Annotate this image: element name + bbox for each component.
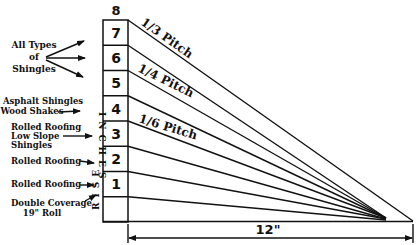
label-rolled-low-slope: Rolled Roofing Low Slope Shingles bbox=[11, 122, 92, 150]
svg-text:7: 7 bbox=[111, 25, 121, 41]
pitch-1-6-label: 1/6 Pitch bbox=[137, 111, 199, 142]
pitch-1-3-label: 1/3 Pitch bbox=[138, 15, 196, 61]
svg-text:Shingles: Shingles bbox=[12, 64, 56, 74]
svg-text:Wood Shakes: Wood Shakes bbox=[0, 106, 64, 116]
label-double-coverage: Double Coverage 19" Roll bbox=[11, 195, 96, 218]
svg-text:6: 6 bbox=[111, 50, 121, 66]
roof-pitch-diagram: 8 7 6 5 4 3 2 1 INCHES RISE 1/3 Pitch 1/… bbox=[0, 0, 416, 245]
svg-text:5: 5 bbox=[111, 75, 121, 91]
svg-text:4: 4 bbox=[111, 101, 121, 117]
row-numbers: 7 6 5 4 3 2 1 bbox=[111, 25, 121, 192]
label-rolled-roofing-2: Rolled Roofing bbox=[11, 156, 94, 166]
label-all-types-shingles: All Types of Shingles bbox=[11, 40, 85, 77]
svg-text:Rolled Roofing: Rolled Roofing bbox=[11, 156, 81, 166]
svg-text:Asphalt Shingles: Asphalt Shingles bbox=[2, 96, 83, 106]
run-12-inch-label: 12" bbox=[256, 222, 281, 237]
svg-text:3: 3 bbox=[111, 126, 121, 142]
label-asphalt-wood: Asphalt Shingles Wood Shakes bbox=[0, 96, 83, 116]
svg-text:Rolled Roofing: Rolled Roofing bbox=[11, 179, 81, 189]
svg-text:of: of bbox=[29, 52, 40, 62]
svg-text:1: 1 bbox=[111, 176, 121, 192]
svg-text:19" Roll: 19" Roll bbox=[23, 208, 62, 218]
rise-8-label: 8 bbox=[111, 3, 120, 18]
svg-text:All Types: All Types bbox=[11, 40, 57, 50]
label-rolled-roofing-1: Rolled Roofing bbox=[11, 179, 94, 189]
svg-text:Shingles: Shingles bbox=[11, 140, 52, 150]
svg-text:2: 2 bbox=[111, 151, 121, 167]
rise-vertical-label: RISE bbox=[91, 165, 101, 210]
svg-text:Double Coverage: Double Coverage bbox=[11, 198, 92, 208]
